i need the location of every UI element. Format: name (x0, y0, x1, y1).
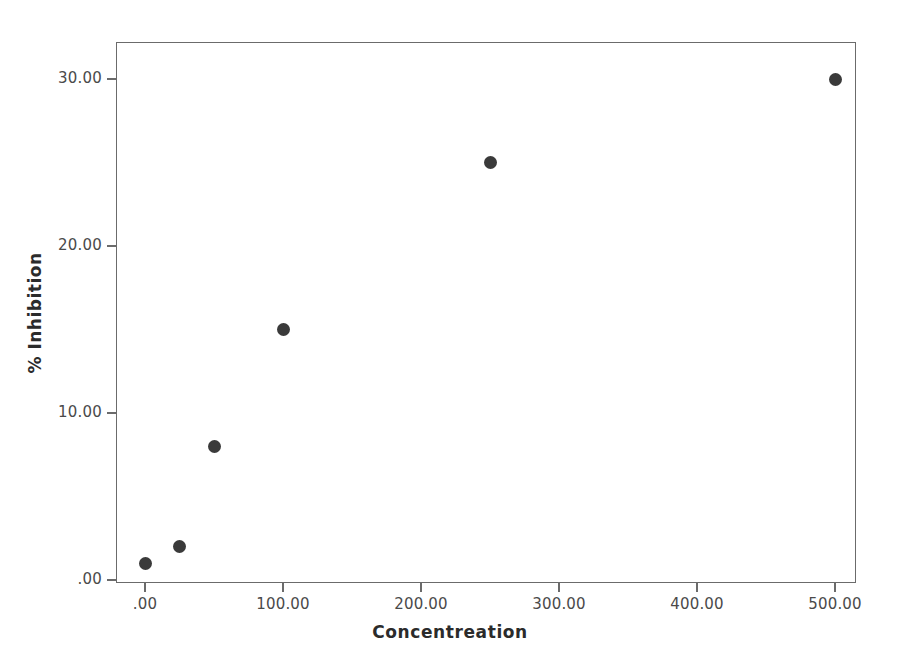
y-tick-label: 20.00 (58, 236, 102, 254)
scatter-chart: .0010.0020.0030.00 .00100.00200.00300.00… (0, 0, 900, 665)
x-tick-label: 500.00 (808, 595, 862, 613)
x-tick-mark (282, 583, 284, 592)
data-point (139, 557, 152, 570)
y-tick-label: 10.00 (58, 403, 102, 421)
x-tick-mark (420, 583, 422, 592)
y-axis-title: % Inhibition (22, 42, 48, 583)
x-tick-mark (558, 583, 560, 592)
y-tick-mark (107, 245, 116, 247)
x-tick-label: 100.00 (256, 595, 310, 613)
x-tick-mark (144, 583, 146, 592)
x-tick-mark (834, 583, 836, 592)
x-tick-mark (696, 583, 698, 592)
x-tick-label: 300.00 (532, 595, 586, 613)
y-tick-mark (107, 412, 116, 414)
data-point (173, 540, 186, 553)
x-tick-label: 200.00 (394, 595, 448, 613)
x-axis-title-text: Concentreation (0, 622, 900, 642)
y-tick-label: 30.00 (58, 69, 102, 87)
data-series (116, 42, 856, 583)
data-point (484, 156, 497, 169)
data-point (208, 440, 221, 453)
data-point (277, 323, 290, 336)
y-tick-label: .00 (78, 570, 102, 588)
x-tick-label: .00 (133, 595, 157, 613)
data-point (829, 73, 842, 86)
y-axis-title-text: % Inhibition (25, 252, 45, 373)
y-tick-mark (107, 579, 116, 581)
y-tick-mark (107, 78, 116, 80)
x-tick-label: 400.00 (670, 595, 724, 613)
